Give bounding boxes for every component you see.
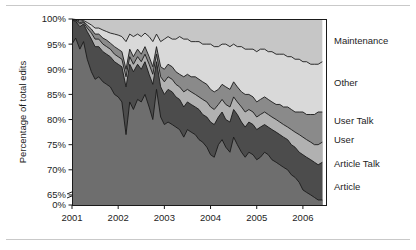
legend-label-other: Other xyxy=(334,77,358,88)
y-tick-label: 100% xyxy=(42,13,67,24)
legend-label-user: User xyxy=(334,134,354,145)
chart-series-areas xyxy=(72,19,322,205)
legend-label-article: Article xyxy=(334,181,360,192)
y-tick-label: 95% xyxy=(47,39,67,50)
stacked-area-chart: 65%70%75%80%85%90%95%100%0% 200120022003… xyxy=(0,0,416,250)
y-tick-label: 85% xyxy=(47,89,67,100)
legend-label-user-talk: User Talk xyxy=(334,115,374,126)
x-tick-label: 2005 xyxy=(246,212,267,223)
y-axis-ticks: 65%70%75%80%85%90%95%100%0% xyxy=(42,13,72,210)
y-baseline-label: 0% xyxy=(52,199,66,210)
y-tick-label: 70% xyxy=(47,164,67,175)
y-axis-title: Percentage of total edits xyxy=(17,61,28,164)
x-tick-label: 2001 xyxy=(61,212,82,223)
y-tick-label: 75% xyxy=(47,139,67,150)
x-tick-label: 2004 xyxy=(200,212,221,223)
y-tick-label: 80% xyxy=(47,114,67,125)
y-tick-label: 90% xyxy=(47,64,67,75)
figure-container: 65%70%75%80%85%90%95%100%0% 200120022003… xyxy=(0,0,416,250)
legend-label-maintenance: Maintenance xyxy=(334,35,388,46)
legend-label-article-talk: Article Talk xyxy=(334,158,380,169)
x-tick-label: 2002 xyxy=(108,212,129,223)
x-axis-ticks: 200120022003200420052006 xyxy=(61,205,313,223)
y-axis-title-text: Percentage of total edits xyxy=(17,61,28,164)
x-tick-label: 2003 xyxy=(154,212,175,223)
chart-legend: MaintenanceOtherUser TalkUserArticle Tal… xyxy=(334,35,388,192)
x-tick-label: 2006 xyxy=(292,212,313,223)
